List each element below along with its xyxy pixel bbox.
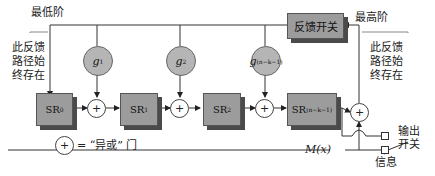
feedback-switch-label: 反馈开关: [294, 18, 338, 34]
lowest-order-label: 最低阶: [31, 6, 64, 19]
tap-g1: g1: [83, 46, 113, 76]
output-terminal-top: [381, 132, 389, 140]
xor-gate-3: +: [255, 99, 274, 118]
shift-register-1: SR1: [120, 93, 158, 126]
right-note-line-3: 终存在: [370, 69, 403, 83]
xor-legend-text: = “异或” 门: [77, 139, 137, 152]
message-input-label: M(x): [305, 143, 331, 156]
highest-order-label: 最高阶: [355, 11, 388, 24]
shift-register-2: SR2: [203, 93, 241, 126]
right-note-line-1: 此反馈: [370, 41, 403, 55]
xor-legend-symbol: +: [55, 136, 74, 155]
output-terminal-bottom: [381, 146, 389, 154]
feedback-switch: 反馈开关: [287, 13, 344, 39]
xor-gate-final: +: [350, 103, 369, 122]
left-feedback-note: 此反馈 路径始 终存在: [12, 41, 45, 83]
xor-gate-2: +: [170, 99, 189, 118]
tap-g-n-k-1: g(n−k−1): [251, 46, 281, 76]
right-feedback-note: 此反馈 路径始 终存在: [370, 41, 403, 83]
left-note-line-2: 路径始: [12, 55, 45, 69]
xor-gate-1: +: [87, 99, 106, 118]
info-label: 信息: [375, 156, 397, 169]
output-switch-label: 输出 开关: [398, 125, 420, 151]
shift-register-n-k-1: SR(n−k−1): [287, 93, 337, 126]
right-note-line-2: 路径始: [370, 55, 403, 69]
shift-register-0: SR0: [36, 93, 73, 126]
tap-g2: g2: [166, 46, 196, 76]
left-note-line-3: 终存在: [12, 69, 45, 83]
left-note-line-1: 此反馈: [12, 41, 45, 55]
